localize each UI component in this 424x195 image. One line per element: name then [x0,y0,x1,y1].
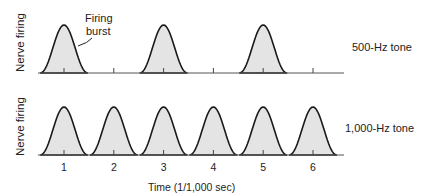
tick-label: 1 [61,161,67,173]
tone-label-1000hz: 1,000-Hz tone [345,122,414,134]
x-axis-label: Time (1/1,000 sec) [148,181,235,193]
firing-burst [40,107,88,155]
annotation-line1: Firing [85,12,113,24]
y-axis-label-top: Nerve firing [14,13,26,72]
x-tick-labels: 123456 [61,161,316,173]
tick-label: 3 [161,161,167,173]
annotation-line2: burst [86,25,110,37]
tick-label: 5 [260,161,266,173]
y-axis-label-bottom: Nerve firing [14,97,26,156]
tick-label: 4 [210,161,216,173]
panel-500hz: Nerve firing 500-Hz tone Firing burst [14,12,412,73]
tone-label-500hz: 500-Hz tone [352,41,412,53]
nerve-firing-diagram: Nerve firing 500-Hz tone Firing burst Ne… [0,0,424,195]
tick-label: 6 [310,161,316,173]
annotation-arrow [78,38,92,46]
firing-burst [189,107,237,155]
firing-burst-annotation: Firing burst [78,12,113,46]
firing-burst [90,107,138,155]
firing-bursts-top [40,25,287,73]
firing-burst [40,25,88,73]
tick-label: 2 [111,161,117,173]
firing-bursts-bottom [40,107,337,155]
firing-burst [239,25,287,73]
firing-burst [239,107,287,155]
firing-burst [289,107,337,155]
firing-burst [140,25,188,73]
panel-1000hz: Nerve firing 1,000-Hz tone 123456 Time (… [14,97,414,193]
firing-burst [140,107,188,155]
